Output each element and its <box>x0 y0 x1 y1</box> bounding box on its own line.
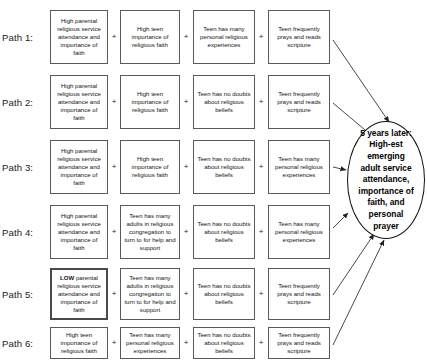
path-step-text: Teen frequently prays and reads scriptur… <box>272 331 326 355</box>
path-step-text: Teen has no doubts about religious belie… <box>197 220 251 244</box>
path-step-text: Teen has many personal religious experie… <box>272 220 326 244</box>
plus-operator: + <box>108 339 120 347</box>
path-step-box: Teen has many adults in religious congre… <box>120 205 180 259</box>
path-step-text: Teen frequently prays and reads scriptur… <box>272 282 326 306</box>
path-step-text: Teen has many adults in religious congre… <box>124 274 176 314</box>
path-step-text: High parental religious service attendan… <box>54 17 104 57</box>
path-label: Path 4: <box>0 227 48 238</box>
path-step-box: High parental religious service attendan… <box>50 205 108 259</box>
plus-operator: + <box>180 228 192 236</box>
path-step-box: Teen frequently prays and reads scriptur… <box>268 10 330 64</box>
path-step-box: High parental religious service attendan… <box>50 75 108 129</box>
path-label: Path 5: <box>0 289 48 300</box>
path-step-text: High parental religious service attendan… <box>54 82 104 122</box>
path-step-text: Teen has many personal religious experie… <box>124 331 176 355</box>
plus-operator: + <box>255 163 267 171</box>
path-step-box: Teen frequently prays and reads scriptur… <box>268 327 330 359</box>
plus-operator: + <box>108 290 120 298</box>
path-step-text: Teen has no doubts about religious belie… <box>197 331 251 355</box>
path-step-box: High teen importance of religious faith <box>120 140 180 194</box>
plus-operator: + <box>180 98 192 106</box>
path-step-text: Teen has no doubts about religious belie… <box>197 90 251 114</box>
path-label: Path 1: <box>0 32 48 43</box>
plus-operator: + <box>255 339 267 347</box>
path-step-box: Teen has many personal religious experie… <box>120 327 180 359</box>
path-label: Path 2: <box>0 97 48 108</box>
path-step-text: Teen has no doubts about religious belie… <box>197 155 251 179</box>
path-step-text: Teen has many personal religious experie… <box>272 155 326 179</box>
path-step-box: LOW parental religious service attendanc… <box>50 268 108 320</box>
path-step-text: Teen frequently prays and reads scriptur… <box>272 90 326 114</box>
plus-operator: + <box>255 98 267 106</box>
path-row: Path 6:High teen importance of religious… <box>0 327 427 359</box>
path-step-box: High teen importance of religious faith <box>50 327 108 359</box>
path-step-text: Teen has many personal religious experie… <box>197 25 251 49</box>
plus-operator: + <box>108 33 120 41</box>
path-row: Path 1:High parental religious service a… <box>0 10 427 64</box>
plus-operator: + <box>180 33 192 41</box>
plus-operator: + <box>108 163 120 171</box>
plus-operator: + <box>180 290 192 298</box>
path-diagram: Path 1:High parental religious service a… <box>0 0 427 361</box>
path-step-text: High parental religious service attendan… <box>54 147 104 187</box>
plus-operator: + <box>180 339 192 347</box>
path-step-text: Teen has no doubts about religious belie… <box>197 282 251 306</box>
path-step-text: LOW parental religious service attendanc… <box>55 274 103 314</box>
path-label: Path 3: <box>0 162 48 173</box>
path-step-text: Teen frequently prays and reads scriptur… <box>272 25 326 49</box>
path-step-box: Teen has no doubts about religious belie… <box>193 205 255 259</box>
path-step-box: Teen has no doubts about religious belie… <box>193 140 255 194</box>
path-step-box: Teen has many adults in religious congre… <box>120 268 180 320</box>
path-label: Path 6: <box>0 338 48 349</box>
plus-operator: + <box>255 290 267 298</box>
path-step-text: High parental religious service attendan… <box>54 212 104 252</box>
path-step-box: Teen has many personal religious experie… <box>193 10 255 64</box>
path-step-box: High parental religious service attendan… <box>50 10 108 64</box>
emphasis-word: LOW <box>60 274 74 281</box>
path-step-text: Teen has many adults in religious congre… <box>124 212 176 252</box>
plus-operator: + <box>255 33 267 41</box>
path-step-box: Teen has no doubts about religious belie… <box>193 327 255 359</box>
path-step-box: High teen importance of religious faith <box>120 10 180 64</box>
plus-operator: + <box>180 163 192 171</box>
path-step-box: High teen importance of religious faith <box>120 75 180 129</box>
path-step-text: High teen importance of religious faith <box>54 331 104 355</box>
path-step-text: High teen importance of religious faith <box>124 90 176 114</box>
path-step-box: High parental religious service attendan… <box>50 140 108 194</box>
path-row: Path 5:LOW parental religious service at… <box>0 268 427 320</box>
path-step-box: Teen has no doubts about religious belie… <box>193 268 255 320</box>
path-step-box: Teen has many personal religious experie… <box>268 140 330 194</box>
plus-operator: + <box>255 228 267 236</box>
path-step-box: Teen frequently prays and reads scriptur… <box>268 268 330 320</box>
path-step-text: High teen importance of religious faith <box>124 155 176 179</box>
path-row: Path 2:High parental religious service a… <box>0 75 427 129</box>
path-step-box: Teen has no doubts about religious belie… <box>193 75 255 129</box>
path-step-box: Teen has many personal religious experie… <box>268 205 330 259</box>
plus-operator: + <box>108 228 120 236</box>
path-step-box: Teen frequently prays and reads scriptur… <box>268 75 330 129</box>
path-step-text: High teen importance of religious faith <box>124 25 176 49</box>
outcome-oval: 5 years later: High-est emerging adult s… <box>347 121 425 239</box>
plus-operator: + <box>108 98 120 106</box>
